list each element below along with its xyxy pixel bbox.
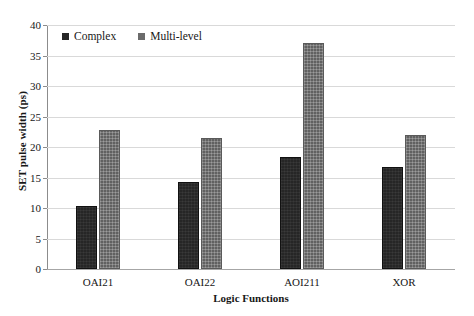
x-tick-label-oai22: OAI22 [149, 276, 251, 288]
bar-complex-xor[interactable] [382, 167, 403, 269]
y-tick-label-15: 15 [30, 172, 41, 184]
bar-multilevel-oai22[interactable] [201, 138, 222, 269]
bar-groups [47, 25, 455, 269]
bar-multilevel-oai21[interactable] [99, 130, 120, 269]
bar-multilevel-xor[interactable] [405, 135, 426, 269]
x-tick-label-oai21: OAI21 [47, 276, 149, 288]
x-axis-title: Logic Functions [47, 292, 455, 304]
y-tick-label-20: 20 [30, 141, 41, 153]
legend-entry-multilevel[interactable]: Multi-level [138, 30, 202, 42]
bar-complex-aoi211[interactable] [280, 157, 301, 269]
legend-entry-complex[interactable]: Complex [62, 30, 116, 42]
legend-swatch-icon-multilevel [138, 33, 145, 40]
y-tick-label-40: 40 [30, 19, 41, 31]
y-axis-title: SET pulse width (ps) [16, 61, 28, 221]
y-tick-label-0: 0 [36, 263, 42, 275]
bar-group-oai21 [47, 25, 149, 269]
bar-complex-oai21[interactable] [76, 206, 97, 269]
legend-label-complex: Complex [74, 30, 116, 42]
y-tick-label-5: 5 [36, 233, 42, 245]
y-tick-mark-0 [43, 269, 47, 270]
chart-figure: SET pulse width (ps) 40 35 30 25 20 15 [0, 0, 474, 316]
y-tick-label-10: 10 [30, 202, 41, 214]
plot-area: 40 35 30 25 20 15 10 5 [47, 25, 455, 269]
y-tick-label-25: 25 [30, 111, 41, 123]
y-tick-label-35: 35 [30, 50, 41, 62]
x-tick-label-aoi211: AOI211 [251, 276, 353, 288]
bar-complex-oai22[interactable] [178, 182, 199, 269]
bar-group-aoi211 [251, 25, 353, 269]
legend-swatch-icon-complex [62, 33, 69, 40]
bar-group-xor [353, 25, 455, 269]
gridline-0: 0 [47, 269, 455, 270]
bar-multilevel-aoi211[interactable] [303, 43, 324, 269]
legend-label-multilevel: Multi-level [150, 30, 202, 42]
chart-legend: Complex Multi-level [62, 30, 202, 42]
bar-group-oai22 [149, 25, 251, 269]
x-tick-label-xor: XOR [353, 276, 455, 288]
y-tick-label-30: 30 [30, 80, 41, 92]
